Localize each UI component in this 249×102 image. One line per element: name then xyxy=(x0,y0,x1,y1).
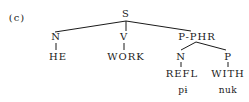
edge-pphr-n xyxy=(181,42,196,50)
node-p-phr: P-PHR xyxy=(178,32,216,42)
edge-s-pphr xyxy=(126,21,191,31)
edge-pphr-p xyxy=(196,42,226,50)
node-v: V xyxy=(120,32,128,42)
gloss-nuk: nuk xyxy=(219,85,238,95)
figure-label: (c) xyxy=(9,13,25,23)
edge-s-n xyxy=(55,21,126,32)
gloss-pi: pɨ xyxy=(178,85,188,95)
node-s: S xyxy=(122,9,130,19)
node-refl: REFL xyxy=(166,69,198,79)
node-n: N xyxy=(51,32,61,42)
node-with: WITH xyxy=(211,69,245,79)
node-he: HE xyxy=(49,52,67,62)
node-n-refl-parent: N xyxy=(176,52,186,62)
node-work: WORK xyxy=(107,52,144,62)
node-p: P xyxy=(224,52,232,62)
